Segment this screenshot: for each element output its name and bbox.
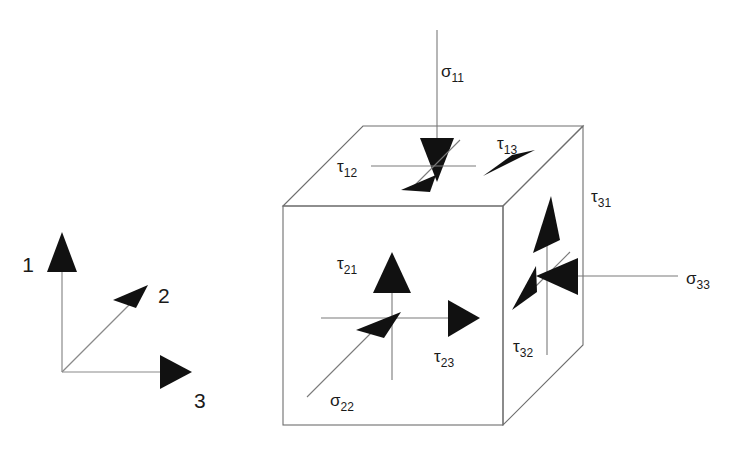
- axis-2: 2: [62, 284, 170, 372]
- axis-1-label: 1: [22, 253, 34, 276]
- tau-12-label: τ12: [337, 157, 357, 180]
- axis-3-label: 3: [194, 389, 206, 412]
- axis-3: 3: [62, 355, 206, 412]
- tau-23-label: τ23: [434, 347, 454, 370]
- sigma-11-arrow: [420, 30, 454, 182]
- sigma-22-arrowhead: [356, 312, 401, 338]
- sigma-11-subscript: 11: [452, 71, 465, 85]
- sigma-22-shaft: [307, 328, 376, 397]
- sigma-33-arrow: [536, 258, 678, 295]
- sigma-33-subscript: 33: [697, 278, 711, 292]
- tau-21-subscript: 21: [344, 263, 358, 277]
- sigma-22-subscript: 22: [341, 400, 355, 414]
- axis-1: 1: [22, 232, 77, 372]
- tau-12-subscript: 12: [344, 166, 358, 180]
- axis-2-shaft: [62, 300, 134, 372]
- tau-31-subscript: 31: [598, 196, 612, 210]
- tau-12-arrow: [371, 140, 476, 192]
- axis-2-arrowhead: [113, 285, 148, 308]
- sigma-11-symbol: σ: [441, 62, 452, 81]
- tau-32-subscript: 32: [520, 346, 534, 360]
- tau-31-label: τ31: [591, 187, 611, 210]
- tau-31-arrowhead: [533, 196, 560, 253]
- tau-23-arrowhead: [448, 300, 480, 337]
- tau-13-subscript: 13: [504, 143, 518, 157]
- sigma-11-label: σ11: [441, 62, 464, 85]
- sigma-33-symbol: σ: [686, 269, 697, 288]
- tau-23-subscript: 23: [441, 356, 455, 370]
- sigma-22-symbol: σ: [330, 391, 341, 410]
- coordinate-triad: 1 2 3: [22, 232, 206, 412]
- figure-canvas: 1 2 3 σ11 τ12: [0, 0, 735, 454]
- tau-21-label: τ21: [337, 254, 357, 277]
- axis-3-arrowhead: [160, 355, 192, 389]
- stress-cube-diagram: 1 2 3 σ11 τ12: [0, 0, 735, 454]
- tau-13-label: τ13: [497, 134, 517, 157]
- axis-1-arrowhead: [47, 232, 77, 272]
- sigma-33-label: σ33: [686, 269, 710, 292]
- tau-12-arrowhead: [401, 175, 436, 192]
- tau-23-arrow: [321, 300, 480, 337]
- tau-32-arrowhead: [512, 266, 537, 310]
- tau-21-arrowhead: [373, 252, 411, 293]
- tau-32-label: τ32: [513, 337, 533, 360]
- sigma-22-arrow: [307, 312, 401, 397]
- sigma-33-arrowhead: [536, 258, 578, 295]
- sigma-22-label: σ22: [330, 391, 354, 414]
- axis-2-label: 2: [158, 284, 170, 307]
